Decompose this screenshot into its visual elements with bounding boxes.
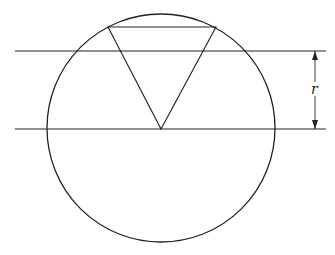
arrowhead-up-icon [312, 51, 318, 60]
radius-label: r [310, 82, 319, 96]
inscribed-triangle [108, 27, 216, 129]
diagram-canvas: r [0, 0, 335, 255]
geometry-figure [0, 0, 335, 255]
arrowhead-down-icon [312, 120, 318, 129]
